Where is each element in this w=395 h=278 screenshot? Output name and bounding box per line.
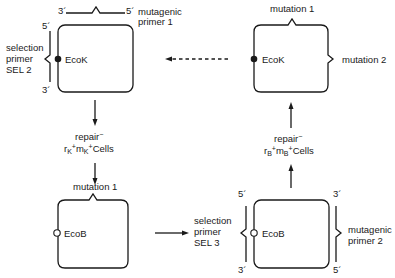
cells-text: Cells bbox=[93, 143, 114, 154]
ecob-label-bottom-left: EcoB bbox=[64, 228, 87, 239]
dashed-arrowhead-icon bbox=[165, 57, 172, 62]
mutagenic-primer-1-label-line2: primer 1 bbox=[138, 16, 173, 27]
mutagenic-primer-2-bracket bbox=[336, 206, 341, 262]
primer1-5prime-end: 5´ bbox=[126, 5, 134, 16]
ecok-label-top-left: EcoK bbox=[65, 54, 88, 65]
selection-primer-sel3-line1: selection bbox=[194, 215, 232, 226]
sel3-3prime-end: 3´ bbox=[238, 264, 246, 275]
cells-text: Cells bbox=[293, 145, 314, 156]
mutagenic-primer-2-line1: mutagenic bbox=[348, 224, 392, 235]
selection-primer-sel2-line2: primer bbox=[6, 53, 33, 64]
repair-minus-sup: − bbox=[99, 131, 103, 138]
ecok-label-top-right: EcoK bbox=[262, 54, 285, 65]
selection-primer-sel2-line3: SEL 2 bbox=[6, 64, 32, 75]
selection-primer-sel3-line2: primer bbox=[194, 226, 221, 237]
primer2-5prime-end: 5´ bbox=[333, 264, 341, 275]
ecob-label-bottom-right: EcoB bbox=[262, 228, 285, 239]
rb-mb-cells-label: rB+mB+Cells bbox=[264, 143, 314, 159]
m-text: m bbox=[276, 145, 284, 156]
mutagenic-primer-1-line bbox=[66, 7, 125, 13]
m-text: m bbox=[76, 143, 84, 154]
arrowhead-up-2-icon bbox=[289, 102, 294, 109]
mutation-1-label-bottom-left: mutation 1 bbox=[73, 181, 117, 192]
mutation-2-label: mutation 2 bbox=[342, 54, 386, 65]
sel2-3prime-end: 3´ bbox=[42, 84, 50, 95]
selection-primer-sel3-line3: SEL 3 bbox=[194, 237, 220, 248]
selection-primer-sel2-line1: selection bbox=[6, 42, 44, 53]
mutation-1-label-top-right: mutation 1 bbox=[270, 3, 314, 14]
rk-mk-cells-label: rK+mK+Cells bbox=[64, 141, 114, 157]
repair-minus-sup: − bbox=[298, 133, 302, 140]
arrowhead-down-1-icon bbox=[93, 119, 98, 126]
ecob-site-marker-bottom-left bbox=[54, 230, 60, 236]
mutagenic-primer-2-line2: primer 2 bbox=[348, 235, 383, 246]
arrowhead-right-icon bbox=[182, 231, 189, 236]
primer2-3prime-end: 3´ bbox=[333, 188, 341, 199]
ecok-site-marker-top-right bbox=[251, 56, 258, 63]
selection-primer-sel3-bracket bbox=[241, 206, 246, 262]
sel3-5prime-end: 5´ bbox=[238, 188, 246, 199]
sel2-5prime-end: 5´ bbox=[42, 20, 50, 31]
ecok-site-marker-top-left bbox=[55, 56, 62, 63]
ecob-site-marker-bottom-right bbox=[251, 230, 257, 236]
primer1-3prime-end: 3´ bbox=[58, 5, 66, 16]
arrowhead-up-1-icon bbox=[289, 164, 294, 171]
selection-primer-sel2-bracket bbox=[45, 31, 50, 82]
